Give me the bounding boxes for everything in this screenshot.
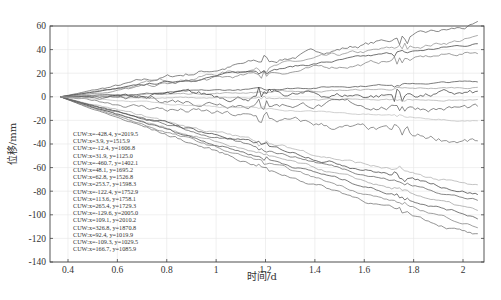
y-tick-label: -120 (29, 234, 47, 244)
y-tick-label: -100 (29, 210, 47, 220)
legend-entry: CUW:x=48.1, y=1695.2 (73, 166, 133, 173)
legend-entry: CUW:x=-428.4, y=2019.5 (73, 130, 138, 137)
legend-entry: CUW:x=113.6, y=1758.1 (73, 195, 136, 202)
x-tick-label: 1.6 (358, 265, 370, 275)
y-tick-label: 60 (37, 21, 47, 31)
y-tick-label: -40 (33, 139, 46, 149)
legend-entry: CUW:x=31.9, y=1125.0 (73, 152, 133, 159)
legend-entry: CUW:x=253.7, y=1598.3 (73, 180, 136, 187)
legend: CUW:x=-428.4, y=2019.5CUW:x=3.9, y=1515.… (73, 130, 138, 252)
series-line (61, 21, 478, 96)
x-axis-title: 时间/d (247, 270, 277, 282)
line-chart: 0.40.60.811.21.41.61.82 6040200-20-40-60… (0, 0, 501, 300)
y-axis-title: 位移/mm (6, 122, 18, 165)
y-tick-label: -140 (29, 257, 47, 267)
legend-entry: CUW:x=-109.3, y=1029.5 (73, 238, 138, 245)
y-tick-label: -20 (33, 116, 46, 126)
legend-entry: CUW:x=326.8, y=1870.8 (73, 224, 136, 231)
y-tick-label: 0 (41, 92, 46, 102)
series-line (61, 35, 478, 96)
x-tick-label: 0.6 (111, 265, 123, 275)
y-tick-label: -60 (33, 163, 46, 173)
x-tick-label: 1.8 (408, 265, 420, 275)
x-tick-label: 0.8 (161, 265, 173, 275)
x-tick-label: 2 (461, 265, 466, 275)
legend-entry: CUW:x=166.7, y=1085.9 (73, 245, 136, 252)
legend-entry: CUW:x=92.4, y=1019.9 (73, 231, 133, 238)
y-tick-label: 40 (37, 45, 47, 55)
x-tick-label: 1 (214, 265, 219, 275)
legend-entry: CUW:x=-460.7, y=1402.1 (73, 159, 138, 166)
legend-entry: CUW:x=3.9, y=1515.9 (73, 137, 130, 144)
y-tick-label: 20 (37, 69, 47, 79)
legend-entry: CUW:x=265.4, y=1729.3 (73, 202, 136, 209)
x-tick-label: 0.4 (62, 265, 74, 275)
x-tick-label: 1.4 (309, 265, 321, 275)
legend-entry: CUW:x=-129.6, y=2005.0 (73, 209, 138, 216)
legend-entry: CUW:x=109.1, y=2010.2 (73, 216, 136, 223)
series-line (61, 52, 478, 97)
legend-entry: CUW:x=62.8, y=1526.8 (73, 173, 133, 180)
y-tick-label: -80 (33, 187, 46, 197)
legend-entry: CUW:x=-12.4, y=1606.8 (73, 144, 135, 151)
legend-entry: CUW:x=-122.4, y=1752.9 (73, 188, 138, 195)
